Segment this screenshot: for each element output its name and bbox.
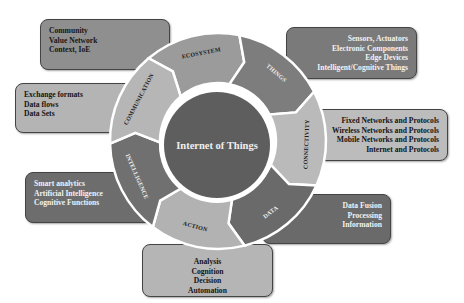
core-title: Internet of Things (176, 140, 257, 151)
iot-cycle-wheel: ECOSYSTEMTHINGSCONNECTIVITYDATAACTIONINT… (0, 0, 464, 303)
